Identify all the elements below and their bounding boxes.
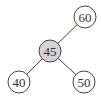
node-50: 50 xyxy=(73,71,95,93)
tree-diagram: 45 60 40 50 xyxy=(0,0,101,103)
node-60: 60 xyxy=(74,6,96,28)
node-label: 45 xyxy=(44,44,57,59)
node-label: 50 xyxy=(78,75,91,90)
node-45: 45 xyxy=(39,40,61,62)
node-label: 40 xyxy=(13,75,26,90)
node-label: 60 xyxy=(79,10,92,25)
node-40: 40 xyxy=(8,71,30,93)
